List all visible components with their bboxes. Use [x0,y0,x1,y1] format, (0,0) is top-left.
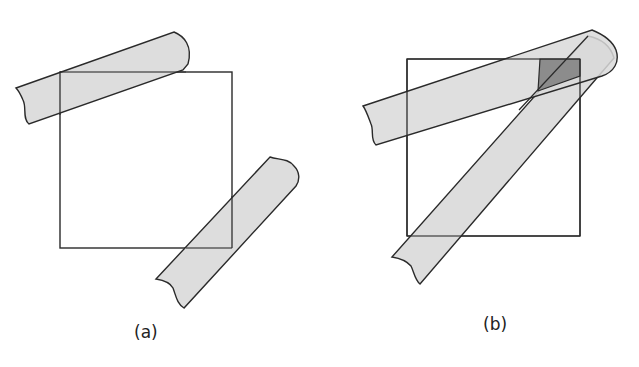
panel-a [16,32,299,308]
strip-a-bottom [156,157,299,308]
strip-a-top [16,32,189,124]
panel-b-label: (b) [483,314,507,334]
diagram-canvas [0,0,639,367]
panel-a-label: (a) [134,322,158,342]
panel-b [363,30,617,284]
